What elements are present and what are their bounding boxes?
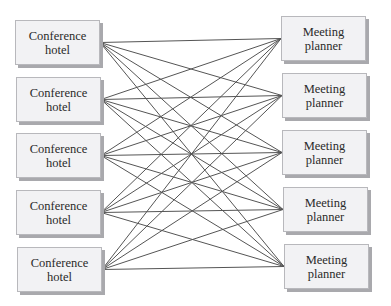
- node-label-line2: hotel: [46, 213, 71, 227]
- edge-hotel-5-planner-5: [102, 267, 284, 270]
- node-label-line2: planner: [306, 96, 343, 110]
- edge-hotel-2-planner-4: [101, 100, 283, 210]
- edge-hotel-5-planner-2: [102, 96, 282, 270]
- left-node-conference-hotel-1: Conference hotel: [15, 20, 100, 65]
- edge-hotel-5-planner-1: [102, 39, 281, 270]
- right-node-meeting-planner-2: Meeting planner: [282, 73, 367, 118]
- right-node-meeting-planner-5: Meeting planner: [284, 244, 369, 289]
- left-node-conference-hotel-3: Conference hotel: [16, 133, 101, 178]
- node-label-line1: Conference: [30, 199, 88, 213]
- node-label-line1: Meeting: [304, 139, 346, 153]
- right-node-meeting-planner-4: Meeting planner: [283, 187, 368, 232]
- node-label-line2: hotel: [45, 43, 70, 57]
- node-label-line2: planner: [306, 153, 343, 167]
- node-label-line2: planner: [307, 210, 344, 224]
- edge-hotel-3-planner-1: [101, 39, 281, 156]
- edge-hotel-5-planner-3: [102, 153, 282, 270]
- right-node-meeting-planner-3: Meeting planner: [282, 130, 367, 175]
- node-label-line1: Meeting: [305, 196, 347, 210]
- left-node-conference-hotel-2: Conference hotel: [16, 77, 101, 122]
- edge-hotel-4-planner-1: [101, 39, 281, 213]
- node-label-line2: planner: [305, 39, 342, 53]
- node-label-line1: Conference: [31, 256, 89, 270]
- node-label-line1: Meeting: [303, 25, 345, 39]
- left-node-conference-hotel-4: Conference hotel: [16, 190, 101, 235]
- node-label-line2: hotel: [46, 156, 71, 170]
- node-label-line1: Meeting: [306, 253, 348, 267]
- left-node-conference-hotel-5: Conference hotel: [17, 247, 102, 292]
- right-node-meeting-planner-1: Meeting planner: [281, 16, 366, 61]
- node-label-line1: Conference: [29, 29, 87, 43]
- edge-hotel-2-planner-1: [101, 39, 281, 100]
- node-label-line1: Meeting: [304, 82, 346, 96]
- node-label-line2: hotel: [46, 100, 71, 114]
- node-label-line1: Conference: [30, 142, 88, 156]
- edge-hotel-1-planner-1: [100, 39, 281, 43]
- node-label-line2: hotel: [47, 270, 72, 284]
- node-label-line1: Conference: [30, 86, 88, 100]
- edge-hotel-5-planner-4: [102, 210, 283, 270]
- node-label-line2: planner: [308, 267, 345, 281]
